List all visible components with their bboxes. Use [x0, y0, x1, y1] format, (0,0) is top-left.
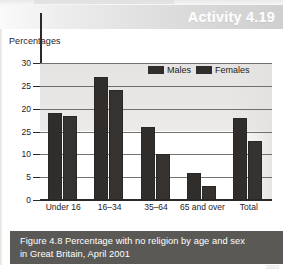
y-axis-tick — [33, 63, 40, 64]
y-axis-label: 25 — [7, 127, 31, 137]
figure-caption-line-2: in Great Britain, April 2001 — [20, 248, 275, 261]
x-axis-label: 16–34 — [98, 202, 122, 212]
gridline — [40, 86, 272, 87]
y-axis-tick — [33, 86, 40, 87]
y-axis-tick — [33, 154, 40, 155]
y-axis-label: 10 — [7, 149, 31, 159]
bar-females-4 — [248, 141, 262, 200]
bar-females-0 — [63, 116, 77, 200]
legend-item-females: Females — [196, 65, 250, 75]
x-axis-label: Total — [240, 202, 258, 212]
y-axis-label: 25 — [7, 81, 31, 91]
y-axis-tick — [33, 132, 40, 133]
bar-males-1 — [94, 77, 108, 200]
activity-header-banner: Activity 4.19 — [0, 5, 283, 29]
bar-females-2 — [156, 154, 170, 200]
chart-legend: Males Females — [148, 65, 250, 75]
y-axis-tick — [33, 200, 40, 201]
legend-swatch-males — [148, 66, 164, 74]
x-axis-label: Under 16 — [46, 202, 81, 212]
bar-females-1 — [109, 90, 123, 200]
bar-females-3 — [202, 186, 216, 200]
figure-caption-line-1: Figure 4.8 Percentage with no religion b… — [20, 235, 275, 248]
y-axis-label: 5 — [7, 172, 31, 182]
y-axis-tick — [33, 177, 40, 178]
y-axis-label: 20 — [7, 104, 31, 114]
source-text: 2003 — [266, 265, 279, 270]
y-axis-label: 0 — [7, 195, 31, 205]
x-axis-label: 65 and over — [180, 202, 225, 212]
bar-chart: Under 1616–3435–6465 and overTotal Males… — [0, 50, 283, 225]
y-axis-tick — [33, 109, 40, 110]
legend-item-males: Males — [148, 65, 191, 75]
activity-title: Activity 4.19 — [188, 9, 275, 25]
bar-males-0 — [48, 113, 62, 200]
bar-males-3 — [187, 173, 201, 200]
legend-swatch-females — [196, 66, 212, 74]
bar-males-4 — [233, 118, 247, 200]
figure-caption: Figure 4.8 Percentage with no religion b… — [10, 231, 283, 264]
legend-label-females: Females — [215, 65, 250, 75]
gridline — [40, 109, 272, 110]
source-strip: 2003 — [0, 265, 283, 274]
legend-label-males: Males — [167, 65, 191, 75]
bar-males-2 — [141, 127, 155, 200]
y-axis-label: 30 — [7, 58, 31, 68]
gridline — [40, 63, 272, 64]
x-axis-label: 35–64 — [144, 202, 168, 212]
y-axis-caption: Percentages — [9, 36, 61, 46]
